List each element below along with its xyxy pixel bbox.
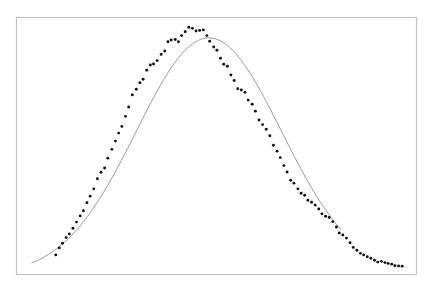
data-point bbox=[310, 201, 313, 204]
data-point bbox=[170, 39, 173, 42]
data-point bbox=[219, 57, 222, 60]
data-point bbox=[82, 209, 85, 212]
data-point bbox=[96, 177, 99, 180]
data-point bbox=[61, 242, 64, 245]
data-point bbox=[58, 246, 61, 249]
data-point bbox=[366, 255, 369, 258]
data-point bbox=[265, 128, 268, 131]
data-point bbox=[187, 26, 190, 29]
data-point bbox=[355, 249, 358, 252]
data-point bbox=[240, 89, 243, 92]
data-point bbox=[383, 261, 386, 264]
data-point bbox=[152, 63, 155, 66]
data-point bbox=[349, 241, 352, 244]
data-point bbox=[321, 212, 324, 215]
data-point bbox=[282, 164, 285, 167]
data-point bbox=[292, 182, 295, 185]
data-point bbox=[163, 50, 166, 53]
data-point bbox=[184, 30, 187, 33]
data-point bbox=[376, 261, 379, 264]
data-point bbox=[114, 140, 117, 143]
data-point bbox=[380, 260, 383, 263]
data-point bbox=[212, 45, 215, 48]
data-point bbox=[401, 265, 404, 268]
data-point bbox=[145, 69, 148, 72]
data-point bbox=[110, 148, 113, 151]
data-point bbox=[149, 64, 152, 67]
data-point bbox=[317, 208, 320, 211]
data-point bbox=[393, 264, 396, 267]
data-point bbox=[296, 187, 299, 190]
data-point bbox=[345, 237, 348, 240]
data-point bbox=[341, 234, 344, 237]
data-point bbox=[247, 99, 250, 102]
data-point bbox=[233, 79, 236, 82]
data-point bbox=[75, 221, 78, 224]
data-point bbox=[359, 252, 362, 255]
data-point bbox=[131, 93, 134, 96]
data-point bbox=[390, 263, 393, 266]
data-point bbox=[174, 38, 177, 41]
data-point bbox=[222, 63, 225, 66]
data-point bbox=[195, 29, 198, 32]
data-point bbox=[328, 216, 331, 219]
data-point bbox=[117, 132, 120, 135]
data-point bbox=[106, 157, 109, 160]
data-point bbox=[205, 34, 208, 37]
data-point bbox=[191, 27, 194, 30]
data-point bbox=[202, 28, 205, 31]
data-point bbox=[89, 195, 92, 198]
data-point bbox=[251, 103, 254, 106]
data-point bbox=[387, 262, 390, 265]
data-point bbox=[215, 49, 218, 52]
plot-frame bbox=[17, 18, 417, 275]
data-point bbox=[397, 265, 400, 268]
data-point bbox=[226, 65, 229, 68]
data-point bbox=[86, 201, 89, 204]
data-point bbox=[276, 150, 279, 153]
data-point bbox=[272, 144, 275, 147]
data-point bbox=[324, 215, 327, 218]
data-point bbox=[331, 220, 334, 223]
data-point bbox=[71, 227, 74, 230]
observed-points bbox=[54, 26, 403, 268]
chart bbox=[0, 0, 433, 290]
data-point bbox=[229, 74, 232, 77]
data-point bbox=[279, 156, 282, 159]
data-point bbox=[261, 123, 264, 126]
data-point bbox=[289, 179, 292, 182]
data-point bbox=[124, 115, 127, 118]
data-point bbox=[306, 199, 309, 202]
data-point bbox=[142, 78, 145, 81]
data-point bbox=[167, 40, 170, 43]
data-point bbox=[180, 34, 183, 37]
data-point bbox=[268, 134, 271, 137]
data-point bbox=[92, 187, 95, 190]
data-point bbox=[160, 53, 163, 56]
data-point bbox=[54, 253, 57, 256]
data-point bbox=[362, 253, 365, 256]
gaussian-fit-line bbox=[32, 38, 341, 263]
data-point bbox=[352, 246, 355, 249]
data-point bbox=[138, 81, 141, 84]
data-point bbox=[198, 29, 201, 32]
data-point bbox=[103, 166, 106, 169]
data-point bbox=[65, 236, 68, 239]
data-point bbox=[335, 226, 338, 229]
data-point bbox=[100, 171, 103, 174]
data-point bbox=[208, 40, 211, 43]
data-point bbox=[127, 106, 130, 109]
data-point bbox=[68, 233, 71, 236]
data-point bbox=[244, 91, 247, 94]
data-point bbox=[79, 214, 82, 217]
data-point bbox=[236, 87, 239, 90]
data-point bbox=[300, 192, 303, 195]
data-point bbox=[258, 118, 261, 121]
data-point bbox=[177, 40, 180, 43]
data-point bbox=[338, 232, 341, 235]
data-point bbox=[135, 88, 138, 91]
data-point bbox=[286, 171, 289, 174]
data-point bbox=[120, 125, 123, 128]
data-point bbox=[303, 194, 306, 197]
data-point bbox=[254, 110, 257, 113]
